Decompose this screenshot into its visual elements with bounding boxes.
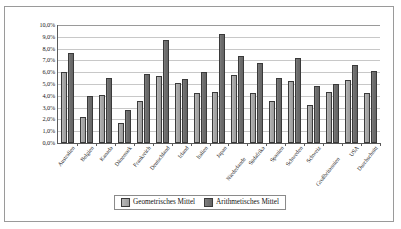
bar (194, 93, 200, 143)
bar (80, 117, 86, 143)
y-axis-tick-label: 0,0% (21, 140, 55, 146)
bar-group (172, 25, 191, 143)
bar-group (247, 25, 266, 143)
bar (87, 96, 93, 143)
x-axis-label: Kanada (98, 145, 113, 162)
bar (61, 72, 67, 143)
bar (182, 79, 188, 143)
axis-tick (380, 143, 381, 146)
bar (333, 84, 339, 143)
x-axis-label: Belgien (79, 145, 95, 163)
plot-area (57, 25, 380, 144)
y-axis-tick-label: 6,0% (21, 69, 55, 75)
bar-series-container (58, 25, 380, 143)
x-axis-label: Niederlande (225, 156, 247, 182)
x-axis-labels: AustralienBelgienKanadaDänemarkFrankreic… (57, 145, 379, 191)
bar (201, 72, 207, 143)
bar (212, 92, 218, 143)
y-axis-tick-label: 7,0% (21, 57, 55, 63)
bar-group (285, 25, 304, 143)
bar-group (153, 25, 172, 143)
bar-group (77, 25, 96, 143)
x-axis-label: Deutschland (148, 145, 170, 171)
bar-group (342, 25, 361, 143)
x-axis-label: Spanien (268, 145, 284, 163)
bar (269, 101, 275, 143)
x-axis-label: Frankreich (132, 145, 152, 168)
y-axis-tick-label: 4,0% (21, 93, 55, 99)
legend-swatch-icon (121, 198, 130, 207)
chart-frame: 10,0%9,0%8,0%7,0%6,0%5,0%4,0%3,0%2,0%1,0… (4, 6, 394, 222)
bar-group (228, 25, 247, 143)
bar-group (323, 25, 342, 143)
bar-group (58, 25, 77, 143)
bar-group (134, 25, 153, 143)
y-axis-tick-label: 5,0% (21, 81, 55, 87)
bar (364, 93, 370, 143)
x-axis-label: Schweiz (306, 145, 323, 164)
bar (345, 80, 351, 143)
legend-item-arithmetic: Arithmetisches Mittel (204, 198, 279, 207)
bar (307, 105, 313, 143)
chart-legend: Geometrisches Mittel Arithmetisches Mitt… (114, 195, 286, 210)
bar (314, 86, 320, 143)
bar (288, 81, 294, 143)
bar (250, 93, 256, 143)
x-axis-label: Südafrika (247, 145, 265, 166)
x-axis-label: Durchschnitt (356, 145, 379, 172)
bar-group (210, 25, 229, 143)
bar (257, 63, 263, 143)
bar (295, 58, 301, 143)
bar (125, 110, 131, 143)
x-axis-label: Dänemark (113, 145, 132, 167)
bar (106, 78, 112, 143)
legend-swatch-icon (204, 198, 213, 207)
bar (276, 78, 282, 143)
y-axis-tick-label: 8,0% (21, 45, 55, 51)
x-axis-label: Australien (57, 145, 76, 167)
bar-group (96, 25, 115, 143)
bar-group (266, 25, 285, 143)
bar (68, 53, 74, 143)
chart-container: 10,0%9,0%8,0%7,0%6,0%5,0%4,0%3,0%2,0%1,0… (5, 7, 395, 223)
bar (238, 56, 244, 143)
bar (326, 92, 332, 143)
legend-label-arithmetic: Arithmetisches Mittel (216, 199, 279, 206)
bar-group (361, 25, 380, 143)
bar (371, 71, 377, 143)
bar (156, 76, 162, 143)
x-axis-label: Schweden (284, 145, 303, 167)
x-axis-label: Irland (177, 145, 190, 159)
legend-label-geometric: Geometrisches Mittel (133, 199, 195, 206)
y-axis-tick-label: 1,0% (21, 128, 55, 134)
legend-item-geometric: Geometrisches Mittel (121, 198, 195, 207)
bar (118, 123, 124, 143)
x-axis-label: Großbritannien (315, 156, 341, 187)
x-axis-label: Japan (215, 145, 228, 159)
x-axis-label: Italien (195, 145, 209, 160)
y-axis-tick-label: 2,0% (21, 116, 55, 122)
bar (144, 74, 150, 143)
bar (137, 101, 143, 143)
y-axis-tick-label: 10,0% (21, 22, 55, 28)
bar-group (304, 25, 323, 143)
bar (231, 75, 237, 143)
y-axis-tick-label: 9,0% (21, 34, 55, 40)
bar (99, 95, 105, 143)
y-axis-tick-label: 3,0% (21, 104, 55, 110)
bar-group (191, 25, 210, 143)
bar-group (115, 25, 134, 143)
bar (163, 40, 169, 143)
bar (352, 65, 358, 143)
bar (175, 83, 181, 143)
y-axis: 10,0%9,0%8,0%7,0%6,0%5,0%4,0%3,0%2,0%1,0… (19, 7, 55, 223)
bar (219, 34, 225, 143)
x-axis-label: USA (348, 145, 360, 158)
